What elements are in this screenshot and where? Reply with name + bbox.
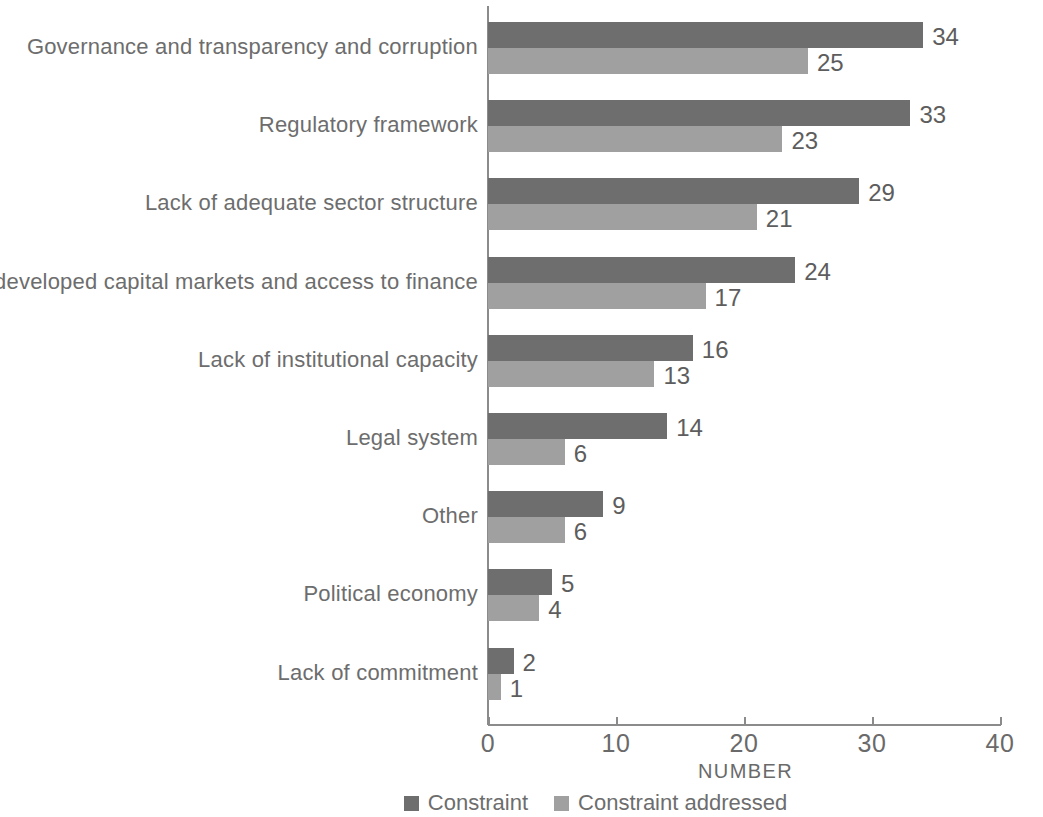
bar-value-label: 25 — [817, 49, 844, 77]
bar-value-label: 1 — [510, 675, 523, 703]
chart-legend: ConstraintConstraint addressed — [0, 790, 1043, 816]
bar-value-label: 13 — [663, 362, 690, 390]
x-axis-tick-label: 20 — [730, 729, 759, 758]
bar-group: Regulatory framework3323 — [0, 100, 1043, 152]
bar-value-label: 23 — [791, 127, 818, 155]
bar-constraint — [488, 100, 910, 126]
bar-constraint — [488, 491, 603, 517]
x-axis-tick-label: 40 — [986, 729, 1015, 758]
bar-constraint-addressed — [488, 204, 757, 230]
x-axis-tick-label: 30 — [858, 729, 887, 758]
x-axis-title-label: NUMBER — [698, 760, 793, 783]
bar-group: Lack of adequate sector structure2921 — [0, 178, 1043, 230]
bar-constraint-addressed — [488, 595, 539, 621]
bar-value-label: 29 — [868, 179, 895, 207]
bar-value-label: 21 — [766, 205, 793, 233]
bar-value-label: 14 — [676, 414, 703, 442]
bar-group: Other96 — [0, 491, 1043, 543]
legend-item: Constraint addressed — [554, 790, 787, 816]
x-axis-tick — [1000, 717, 1002, 725]
bar-constraint — [488, 178, 859, 204]
legend-label: Constraint — [428, 790, 528, 815]
bar-value-label: 9 — [612, 492, 625, 520]
bar-group: Lack of commitment21 — [0, 648, 1043, 700]
x-axis-tick-label: 10 — [602, 729, 631, 758]
bar-value-label: 4 — [548, 596, 561, 624]
x-axis-tick — [488, 717, 490, 725]
category-label: Lack of adequate sector structure — [145, 190, 478, 216]
bar-value-label: 16 — [702, 336, 729, 364]
bar-constraint — [488, 648, 514, 674]
bar-group: Governance and transparency and corrupti… — [0, 22, 1043, 74]
bar-value-label: 34 — [932, 23, 959, 51]
x-axis-tick — [616, 717, 618, 725]
bar-group: Political economy54 — [0, 569, 1043, 621]
x-axis-title: NUMBER — [0, 760, 1043, 783]
legend-swatch-icon — [404, 796, 419, 811]
bar-constraint-addressed — [488, 48, 808, 74]
bar-constraint — [488, 22, 923, 48]
legend-item: Constraint — [404, 790, 528, 816]
bar-constraint-addressed — [488, 674, 501, 700]
category-label: Other — [422, 503, 478, 529]
bar-group: Underdeveloped capital markets and acces… — [0, 257, 1043, 309]
bar-constraint-addressed — [488, 283, 706, 309]
bar-group: Lack of institutional capacity1613 — [0, 335, 1043, 387]
bar-constraint-addressed — [488, 126, 782, 152]
bar-value-label: 6 — [574, 440, 587, 468]
x-axis-tick — [872, 717, 874, 725]
bar-group: Legal system146 — [0, 413, 1043, 465]
legend-swatch-icon — [554, 796, 569, 811]
bar-value-label: 5 — [561, 570, 574, 598]
category-label: Governance and transparency and corrupti… — [27, 34, 478, 60]
bar-value-label: 24 — [804, 258, 831, 286]
category-label: Legal system — [346, 425, 478, 451]
bar-constraint-addressed — [488, 439, 565, 465]
category-label: Regulatory framework — [259, 112, 478, 138]
category-label: Political economy — [303, 581, 478, 607]
bar-constraint — [488, 335, 693, 361]
bar-constraint — [488, 569, 552, 595]
bar-value-label: 17 — [715, 284, 742, 312]
bar-constraint — [488, 413, 667, 439]
x-axis-tick-label: 0 — [481, 729, 495, 758]
x-axis-tick — [744, 717, 746, 725]
category-label: Lack of commitment — [278, 660, 478, 686]
bar-constraint — [488, 257, 795, 283]
category-label: Lack of institutional capacity — [198, 347, 478, 373]
bar-chart-figure: 010203040 NUMBER Governance and transpar… — [0, 0, 1043, 817]
bar-constraint-addressed — [488, 361, 654, 387]
legend-label: Constraint addressed — [578, 790, 787, 815]
bar-constraint-addressed — [488, 517, 565, 543]
category-label: Underdeveloped capital markets and acces… — [0, 269, 478, 295]
bar-value-label: 33 — [919, 101, 946, 129]
bar-value-label: 6 — [574, 518, 587, 546]
bar-value-label: 2 — [523, 649, 536, 677]
